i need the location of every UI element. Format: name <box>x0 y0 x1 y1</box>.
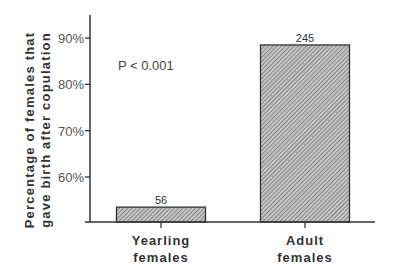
data-label-0: 56 <box>155 194 167 206</box>
p-value-annotation: P < 0.001 <box>118 58 174 73</box>
y-tick-label-3: 90% <box>58 31 84 46</box>
bar-chart: Percentage of females that gave birth af… <box>0 0 393 276</box>
y-tick-label-1: 70% <box>58 124 84 139</box>
x-tick-label-0-0: Yearling <box>132 233 191 248</box>
y-axis-label-line-1: Percentage of females that <box>22 32 37 229</box>
x-tick-label-1-1: females <box>277 250 332 265</box>
y-axis-label: Percentage of females that gave birth af… <box>22 32 53 229</box>
y-tick-label-2: 80% <box>58 77 84 92</box>
y-axis-label-line-2: gave birth after copulation <box>38 32 53 228</box>
x-tick-label-0-1: females <box>133 250 188 265</box>
y-tick-label-0: 60% <box>58 170 84 185</box>
bar-0 <box>117 207 206 222</box>
data-label-1: 245 <box>296 32 314 44</box>
bar-1 <box>261 45 350 222</box>
x-tick-label-1-0: Adult <box>286 233 324 248</box>
